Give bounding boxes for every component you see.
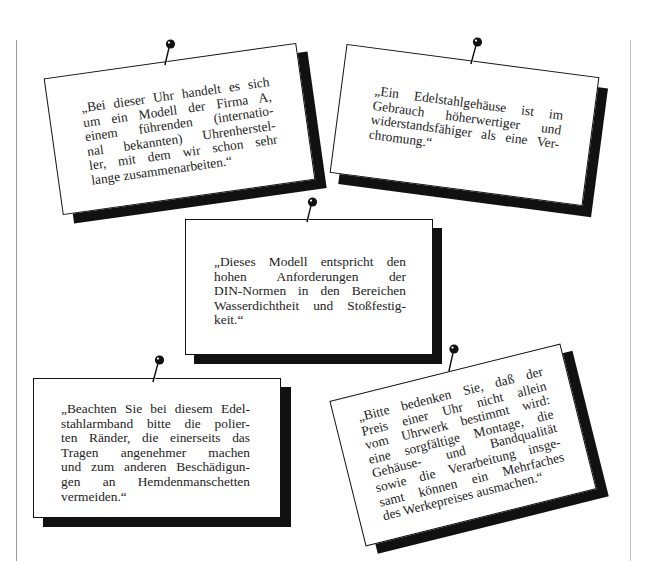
push-pin-icon [443,343,463,373]
quote-line: DIN-Normen in den Bereichen [214,284,406,299]
page-margin-rule-left [16,40,17,561]
quote-card-manufacturer: „Bei dieser Uhr handelt es sich um ein M… [44,43,316,215]
quote-line: gen an Hemdenmanschetten [61,475,250,490]
push-pin-icon [160,38,180,68]
page-margin-rule-right [630,40,631,561]
quote-line: stahlarmband bitte die polier- [61,417,250,432]
push-pin-icon [467,36,487,66]
quote-line: und zum anderen Beschädigun- [61,460,250,475]
quote-card-bracelet: „Beachten Sie bei diesem Edel- stahlarmb… [33,378,281,518]
quote-line: vermeiden.“ [61,490,250,505]
card-quote-text: „Beachten Sie bei diesem Edel- stahlarmb… [61,402,250,504]
push-pin-icon [302,196,322,226]
card-quote-text: „Dieses Modell entspricht den hohen Anfo… [214,255,406,328]
quote-line: keit.“ [214,313,406,328]
quote-line: ten Ränder, die einerseits das [61,431,250,446]
quote-line: Tragen angenehmer machen [61,446,250,461]
quote-card-price: „Bitte bedenken Sie, daß der Preis einer… [329,343,596,546]
quote-line: Wasserdichtheit und Stoßfestig- [214,299,406,314]
quote-line: hohen Anforderungen der [214,270,406,285]
quote-line: „Beachten Sie bei diesem Edel- [61,402,250,417]
quote-card-stainless-case: „Ein Edelstahlgehäuse ist im Gebrauch hö… [330,44,600,206]
quote-card-din-norms: „Dieses Modell entspricht den hohen Anfo… [185,219,433,355]
quote-line: „Dieses Modell entspricht den [214,255,406,270]
push-pin-icon [149,354,169,384]
